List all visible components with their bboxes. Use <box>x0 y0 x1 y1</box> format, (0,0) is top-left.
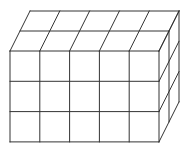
top-face-grid <box>10 11 179 51</box>
cube-prism-drawing <box>0 0 191 151</box>
front-face-grid <box>10 51 159 142</box>
cube-prism-diagram <box>0 0 191 151</box>
